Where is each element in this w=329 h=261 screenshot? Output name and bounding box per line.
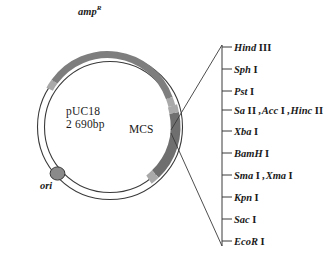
enzyme-numeral: I [252, 214, 256, 225]
enzyme-numeral: II [248, 105, 257, 116]
site-label-xbai: XbaI [234, 126, 258, 137]
enzyme-name: Hind [234, 42, 256, 53]
enzyme-name: Pst [234, 86, 247, 97]
enzyme-numeral: I [265, 148, 269, 159]
site-label-hindiii: HindIII [234, 42, 272, 53]
enzyme-numeral: I [253, 64, 257, 75]
enzyme-name: Sa [234, 105, 245, 116]
site-label-kpni: KpnI [234, 192, 259, 203]
site-label-sali-acci-hincii: SaII,AccI,HincII [234, 105, 323, 116]
site-label-psti: PstI [234, 86, 254, 97]
restriction-site-list: HindIIISphIPstISaII,AccI,HincIIXbaIBamHI… [0, 0, 329, 261]
site-label-separator: , [262, 170, 265, 181]
enzyme-name: Kpn [234, 192, 252, 203]
enzyme-numeral: III [259, 42, 272, 53]
enzyme-numeral: I [281, 105, 285, 116]
enzyme-name: Xma [266, 170, 286, 181]
site-label-smai-xmai: SmaI,XmaI [234, 170, 293, 181]
enzyme-name: EcoR [234, 236, 258, 247]
site-label-ecori: EcoRI [234, 236, 265, 247]
enzyme-name: Acc [262, 105, 278, 116]
site-label-bamhi: BamHI [234, 148, 269, 159]
site-label-separator: , [258, 105, 261, 116]
enzyme-name: Sph [234, 64, 251, 75]
enzyme-numeral: I [256, 170, 260, 181]
site-label-sphi: SphI [234, 64, 258, 75]
enzyme-name: BamH [234, 148, 263, 159]
enzyme-name: Sma [234, 170, 253, 181]
enzyme-numeral: I [255, 192, 259, 203]
enzyme-numeral: I [260, 236, 264, 247]
enzyme-name: Xba [234, 126, 252, 137]
enzyme-numeral: I [254, 126, 258, 137]
plasmid-map-figure: pUC18 2 690bp MCS ampR ori HindIIISphIPs… [0, 0, 329, 261]
enzyme-numeral: I [250, 86, 254, 97]
enzyme-name: Hinc [291, 105, 313, 116]
enzyme-name: Sac [234, 214, 250, 225]
site-label-separator: , [287, 105, 290, 116]
site-label-saci: SacI [234, 214, 257, 225]
enzyme-numeral: I [289, 170, 293, 181]
enzyme-numeral: II [315, 105, 324, 116]
